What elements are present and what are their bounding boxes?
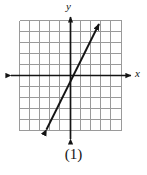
y-axis-label: y [66,1,71,12]
coordinate-graph-figure: y x (1) [0,0,147,175]
x-axis-label: x [135,68,140,79]
figure-caption: (1) [0,147,147,162]
plotted-line-y-equals-2x [47,24,100,130]
